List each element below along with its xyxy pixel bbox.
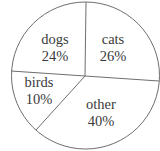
slice-value-cats: 26% [100, 48, 127, 64]
pie-chart: dogs 24% cats 26% birds 10% other 40% [0, 0, 160, 151]
slice-label-other: other [86, 96, 116, 112]
slice-birds: birds 10% [25, 74, 54, 107]
slice-value-dogs: 24% [42, 48, 69, 64]
slice-value-birds: 10% [26, 91, 53, 107]
slice-cats: cats 26% [100, 31, 127, 64]
slice-label-birds: birds [25, 74, 54, 90]
slice-value-other: 40% [88, 113, 115, 129]
slice-other: other 40% [86, 96, 116, 129]
slice-dogs: dogs 24% [41, 31, 69, 64]
slice-label-dogs: dogs [41, 31, 69, 47]
slice-label-cats: cats [102, 31, 125, 47]
